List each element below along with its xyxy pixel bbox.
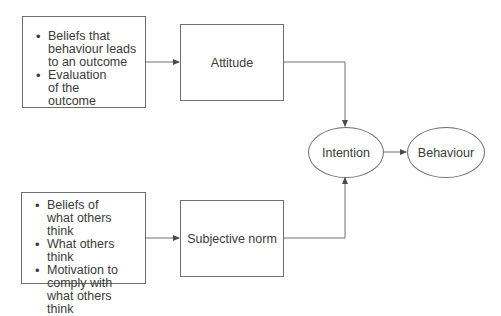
bullet-item: What others think bbox=[34, 238, 139, 264]
attitude-inputs-list: Beliefs that behaviour leads to an outco… bbox=[35, 30, 137, 108]
intention-label: Intention bbox=[322, 146, 370, 160]
bullet-item: Beliefs that behaviour leads to an outco… bbox=[35, 30, 137, 69]
intention-node: Intention bbox=[308, 127, 384, 178]
attitude-inputs-box: Beliefs that behaviour leads to an outco… bbox=[22, 16, 146, 108]
norm-inputs-list: Beliefs of what others think What others… bbox=[34, 199, 139, 316]
behaviour-node: Behaviour bbox=[407, 127, 485, 178]
norm-inputs-box: Beliefs of what others think What others… bbox=[21, 192, 146, 284]
subjective-norm-box: Subjective norm bbox=[180, 200, 284, 277]
arrow-attitude-to-intention bbox=[283, 62, 345, 126]
behaviour-label: Behaviour bbox=[418, 146, 474, 160]
bullet-item: Evaluation of the outcome bbox=[35, 69, 137, 108]
subjective-norm-label: Subjective norm bbox=[187, 232, 277, 246]
attitude-label: Attitude bbox=[211, 56, 253, 70]
bullet-item: Motivation to comply with what others th… bbox=[34, 264, 139, 316]
bullet-item: Beliefs of what others think bbox=[34, 199, 139, 238]
arrow-subjective-norm-to-intention bbox=[283, 178, 345, 238]
attitude-box: Attitude bbox=[180, 24, 284, 101]
